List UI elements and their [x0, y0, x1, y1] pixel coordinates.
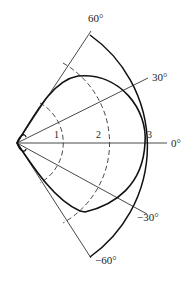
outer-arc-3	[90, 35, 147, 257]
angle-label-minus30: −30°	[137, 211, 159, 223]
curve-label-2: 2	[96, 129, 101, 140]
curve-label-3: 3	[147, 129, 152, 140]
angle-label-0: 0°	[171, 137, 181, 149]
radial-line-minus30	[17, 143, 147, 214]
angle-label-30: 30°	[152, 71, 167, 83]
radiation-pattern-lobe	[17, 76, 145, 212]
angle-label-60: 60°	[88, 12, 103, 24]
angle-label-minus60: −60°	[95, 254, 117, 266]
polar-diagram: 60° 30° 0° −30° −60° 1 2 3	[0, 0, 192, 281]
curve-label-1: 1	[54, 129, 59, 140]
